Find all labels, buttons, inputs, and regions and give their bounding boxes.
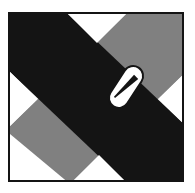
figure-canvas <box>0 0 195 193</box>
figure-frame <box>8 12 184 182</box>
figure-graphic <box>10 14 182 180</box>
